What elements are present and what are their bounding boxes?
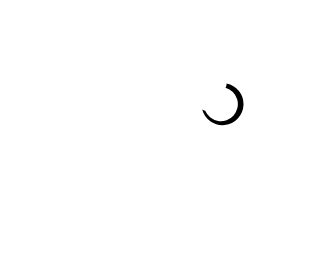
loading-spinner: loading <box>199 81 245 127</box>
loading-spinner-icon <box>199 81 245 127</box>
loading-page: loading <box>0 0 331 280</box>
loading-state-label: loading <box>199 127 200 128</box>
